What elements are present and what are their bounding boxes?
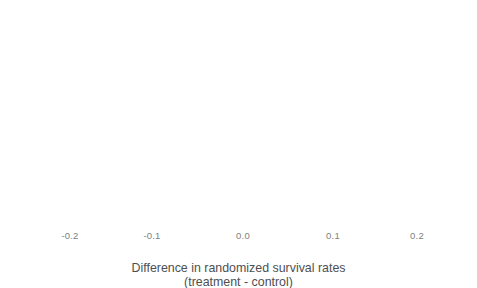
- x-tick-label: -0.1: [143, 230, 160, 241]
- x-tick-label: 0.2: [410, 230, 424, 241]
- x-axis-title: Difference in randomized survival rates …: [0, 246, 477, 288]
- x-tick-label: 0.0: [236, 230, 250, 241]
- x-tick-label: -0.2: [61, 230, 78, 241]
- x-axis-title-line2: (treatment - control): [0, 275, 477, 288]
- x-tick-label: 0.1: [326, 230, 340, 241]
- plot-area: [0, 0, 477, 288]
- x-axis-title-line1: Difference in randomized survival rates: [132, 261, 346, 275]
- dot-histogram-figure: -0.2-0.10.00.10.2 Difference in randomiz…: [0, 0, 477, 288]
